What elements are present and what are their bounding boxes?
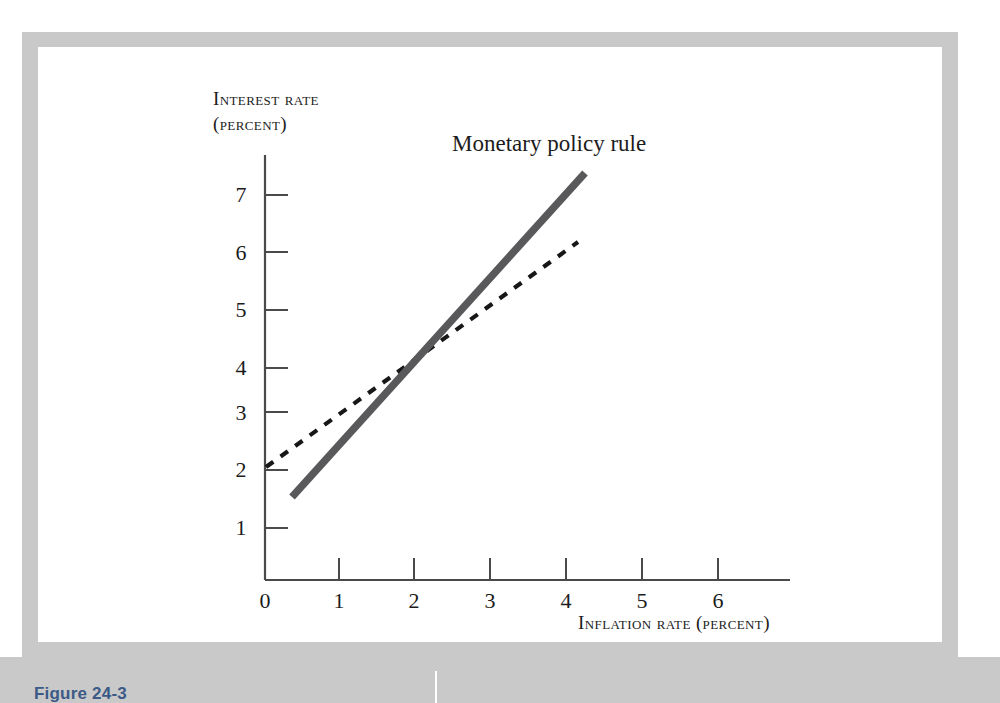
y-axis-ticks xyxy=(265,195,288,528)
x-tick-label-2: 2 xyxy=(401,588,427,614)
y-tick-label-3: 3 xyxy=(228,400,254,426)
x-tick-label-4: 4 xyxy=(553,588,579,614)
y-tick-label-4: 4 xyxy=(228,355,254,381)
x-tick-label-6: 6 xyxy=(705,588,731,614)
figure-page: 7 6 5 4 3 2 1 0 1 2 3 4 5 6 Interest rat… xyxy=(0,0,1000,703)
x-tick-label-5: 5 xyxy=(629,588,655,614)
figure-caption-label: Figure 24-3 xyxy=(34,684,127,703)
series-monetary-policy-rule-solid xyxy=(292,173,585,497)
x-tick-label-3: 3 xyxy=(477,588,503,614)
y-axis-title-line2: (percent) xyxy=(213,113,287,135)
figure-caption-band xyxy=(0,657,1000,703)
y-tick-label-2: 2 xyxy=(228,457,254,483)
y-tick-label-5: 5 xyxy=(228,297,254,323)
x-axis-ticks xyxy=(339,558,718,580)
caption-divider xyxy=(435,671,437,703)
y-tick-label-6: 6 xyxy=(228,240,254,266)
y-axis-title-line1: Interest rate xyxy=(213,88,319,110)
y-tick-label-7: 7 xyxy=(228,182,254,208)
series-annotation-monetary-policy-rule: Monetary policy rule xyxy=(452,131,646,157)
x-tick-label-1: 1 xyxy=(326,588,352,614)
x-tick-label-0: 0 xyxy=(252,588,278,614)
x-axis-title: Inflation rate (percent) xyxy=(578,612,770,634)
y-tick-label-1: 1 xyxy=(228,515,254,541)
